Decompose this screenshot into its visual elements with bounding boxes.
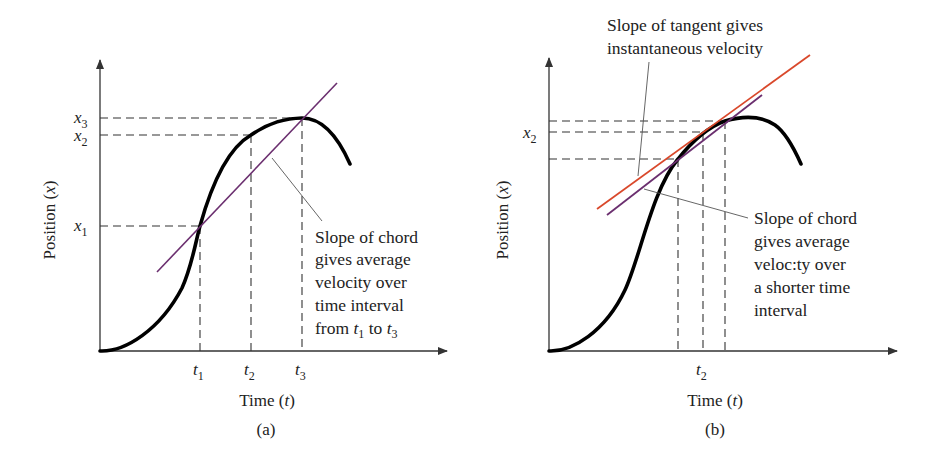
chord-leader-b: [644, 189, 748, 218]
chord-line-a: [157, 83, 337, 272]
panel-b: x2 t2 Time (t) Position (x) (b) Slope of…: [493, 15, 897, 439]
y-axis-label-a: Position (x): [40, 181, 59, 260]
dashed-guides-a: [100, 118, 302, 351]
chord-annotation-a: Slope of chord gives average velocity ov…: [315, 227, 418, 341]
x-axis-label-b: Time (t): [687, 391, 743, 410]
svg-text:veloc:ty over: veloc:ty over: [754, 254, 846, 274]
tangent-annotation-b: Slope of tangent gives instantaneous vel…: [607, 15, 763, 58]
svg-text:velocity over: velocity over: [315, 272, 407, 292]
svg-text:Slope of chord: Slope of chord: [315, 227, 418, 247]
svg-text:Slope of chord: Slope of chord: [754, 208, 857, 228]
leader-line-a: [272, 158, 322, 221]
panel-a: x3 x2 x1 t1 t2 t3 Time (t) Position (x) …: [40, 60, 447, 439]
x-axis-label-a: Time (t): [239, 391, 295, 410]
chord-annotation-b: Slope of chord gives average veloc:ty ov…: [754, 208, 857, 320]
svg-text:from t1 to t3: from t1 to t3: [315, 318, 398, 341]
caption-b: (b): [705, 420, 725, 439]
chord-line-b: [607, 95, 762, 215]
figure-canvas: x3 x2 x1 t1 t2 t3 Time (t) Position (x) …: [0, 0, 941, 462]
svg-text:gives average: gives average: [754, 231, 850, 251]
y-tick-x2-b: x2: [522, 123, 537, 146]
x-tick-t3: t3: [295, 360, 306, 383]
x-tick-t2: t2: [244, 360, 255, 383]
caption-a: (a): [257, 420, 276, 439]
svg-text:interval: interval: [754, 300, 808, 320]
svg-text:a shorter time: a shorter time: [754, 277, 850, 297]
svg-text:Slope of tangent gives: Slope of tangent gives: [607, 15, 763, 35]
position-curve-a: [100, 118, 350, 351]
y-axis-label-b: Position (x): [493, 181, 512, 260]
x-tick-t1: t1: [193, 360, 204, 383]
x-tick-t2-b: t2: [696, 360, 707, 383]
dashed-guides-b: [549, 121, 725, 351]
svg-text:time interval: time interval: [315, 295, 404, 315]
svg-text:gives average: gives average: [315, 249, 411, 269]
svg-text:instantaneous velocity: instantaneous velocity: [607, 38, 763, 58]
y-tick-x1: x1: [73, 216, 88, 239]
